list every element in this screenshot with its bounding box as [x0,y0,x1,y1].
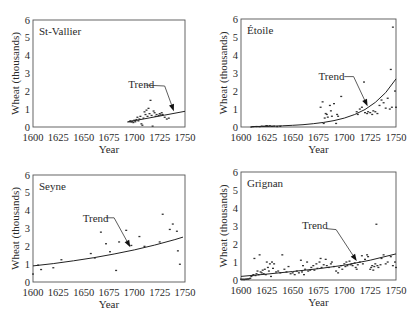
arrowhead-icon [125,240,131,247]
trend-annotation-label: Trend [128,78,154,90]
data-point [168,118,170,119]
data-point [390,256,392,257]
chart-panel-seyne: Seyne01234561600162516501675170017251750… [9,170,196,310]
data-point [336,114,338,115]
data-point [366,113,368,114]
data-point [356,111,358,112]
data-point [281,254,283,255]
x-tick-label: 1750 [386,132,407,143]
data-point [376,265,378,266]
data-point [267,267,269,268]
data-point [147,116,149,117]
data-point [323,123,325,124]
data-point [329,105,331,106]
data-point [331,261,333,262]
data-point [326,114,328,115]
data-point [331,116,333,117]
data-point [315,263,317,264]
panel-title: Étoile [247,24,273,36]
x-tick-label: 1600 [23,287,44,298]
data-point [357,114,359,115]
x-tick-label: 1675 [308,285,329,296]
data-point [249,278,251,279]
data-point [105,243,107,244]
data-point [164,117,166,118]
x-axis-label: Year [99,298,120,310]
data-point [366,254,368,255]
data-point [312,265,314,266]
data-point [134,121,136,122]
data-point [367,111,369,112]
data-point [132,122,134,123]
x-tick-label: 1675 [99,287,120,298]
y-tick-label: 3 [25,68,30,79]
data-point [392,265,394,266]
y-tick-label: 3 [233,68,238,79]
y-tick-label: 4 [25,50,31,61]
data-point [179,264,181,265]
data-point [326,265,328,266]
data-point [364,112,366,113]
data-point [52,267,54,268]
data-point [340,96,342,97]
data-point [394,261,396,262]
x-axis-label: Year [308,296,329,308]
data-point [100,232,102,233]
data-point [277,270,279,271]
arrowhead-icon [362,99,367,106]
y-tick-label: 6 [233,167,238,178]
data-point [372,110,374,111]
y-tick-label: 3 [233,221,238,232]
data-point [262,270,264,271]
data-point [364,259,366,260]
data-point [303,274,305,275]
x-axis-label: Year [308,143,329,155]
data-point [273,263,275,264]
x-tick-label: 1700 [124,287,145,298]
x-tick-label: 1700 [124,132,145,143]
data-point [152,126,154,127]
x-tick-label: 1675 [99,132,120,143]
data-point [257,270,259,271]
data-point [323,264,325,265]
data-point [156,114,158,115]
data-point [361,107,363,108]
x-tick-label: 1650 [282,285,303,296]
data-point [148,108,150,109]
x-tick-label: 1725 [149,132,170,143]
data-point [153,110,155,111]
data-point [144,111,146,112]
data-point [118,241,120,242]
trend-leader-line [327,229,353,256]
y-axis-label: Wheat (thousands) [9,187,22,270]
data-point [330,110,332,111]
data-point [380,264,382,265]
data-point [136,117,138,118]
data-point [373,266,375,267]
y-tick-label: 3 [25,223,30,234]
trend-leader-line [344,77,364,100]
data-point [259,254,261,255]
data-point [355,267,357,268]
x-tick-label: 1725 [360,285,381,296]
data-point [376,113,378,114]
data-point [310,267,312,268]
y-tick-label: 4 [25,205,31,216]
y-tick-label: 2 [25,86,30,97]
data-point [159,241,161,242]
y-tick-label: 1 [25,259,30,270]
panel-title: Grignan [247,177,284,189]
data-point [151,115,153,116]
data-point [139,116,141,117]
data-point [387,261,389,262]
y-axis-label: Wheat (thousands) [217,184,230,267]
data-point [176,231,178,232]
data-point [389,108,391,109]
trend-line [251,79,396,127]
data-point [138,236,140,237]
data-point [357,264,359,265]
data-point [385,263,387,264]
data-point [383,102,385,103]
data-point [301,271,303,272]
data-point [266,261,268,262]
